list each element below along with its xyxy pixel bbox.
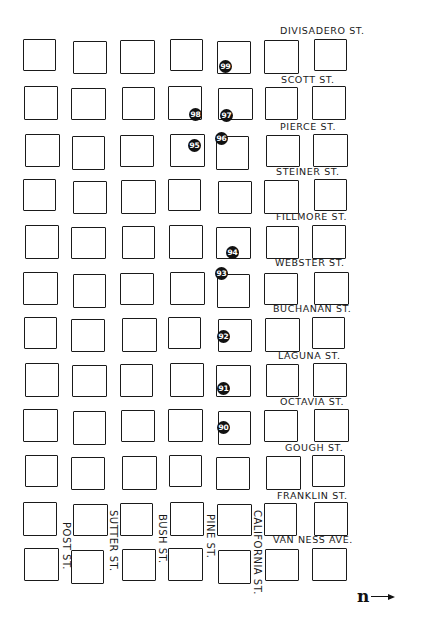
city-block [169, 225, 203, 259]
city-block [218, 550, 251, 584]
city-block [71, 227, 106, 259]
city-block [120, 273, 154, 305]
city-block [71, 550, 104, 584]
city-block [169, 455, 202, 487]
city-block [120, 135, 154, 167]
city-block [170, 39, 203, 71]
city-block [264, 410, 298, 442]
city-block [24, 86, 58, 120]
city-block [73, 41, 107, 74]
city-block [266, 364, 299, 397]
city-block [71, 88, 106, 120]
city-block [25, 455, 58, 487]
city-block [312, 86, 346, 120]
location-marker[interactable]: 99 [219, 60, 232, 73]
city-block [73, 274, 106, 308]
city-block [170, 272, 205, 305]
city-block [25, 134, 60, 167]
street-label: DIVISADERO ST. [280, 25, 365, 36]
city-block [23, 502, 57, 536]
street-label: GOUGH ST. [285, 442, 343, 453]
location-marker[interactable]: 92 [217, 330, 230, 343]
city-block [314, 502, 348, 536]
location-marker[interactable]: 94 [226, 246, 239, 259]
location-marker[interactable]: 96 [215, 132, 228, 145]
city-block [24, 548, 59, 581]
city-block [73, 181, 107, 214]
arrow-head-icon [388, 594, 395, 600]
city-block [120, 503, 153, 536]
city-block [266, 226, 299, 259]
city-block [312, 317, 345, 349]
city-block [170, 363, 204, 397]
city-block [72, 136, 105, 170]
city-block [312, 455, 345, 487]
city-block [216, 457, 250, 490]
location-marker[interactable]: 95 [188, 139, 201, 152]
city-block [24, 317, 57, 349]
city-block [71, 457, 105, 490]
street-label: STEINER ST. [276, 166, 340, 177]
city-block [25, 363, 59, 397]
street-label: PIERCE ST. [280, 121, 336, 132]
street-label-vertical: CALIFORNIA ST. [252, 510, 263, 595]
city-block [122, 549, 156, 581]
city-block [170, 134, 205, 167]
city-block [120, 364, 153, 397]
city-block [312, 225, 346, 259]
location-marker[interactable]: 90 [217, 421, 230, 434]
city-block [266, 456, 301, 490]
city-block [122, 456, 157, 490]
street-label-vertical: SUTTER ST. [108, 510, 119, 572]
city-block [72, 365, 107, 397]
street-label-vertical: POST ST. [61, 522, 72, 570]
city-block [314, 179, 347, 211]
city-block [266, 135, 300, 167]
city-block [23, 272, 58, 305]
city-block [73, 504, 108, 536]
city-block [265, 549, 299, 581]
location-marker[interactable]: 91 [217, 382, 230, 395]
city-block [314, 272, 349, 305]
city-block [264, 273, 298, 305]
street-label: SCOTT ST. [281, 74, 335, 85]
city-block [264, 40, 299, 74]
city-block [120, 40, 155, 74]
city-block [168, 409, 203, 442]
street-label: FRANKLIN ST. [277, 490, 348, 501]
city-block [264, 180, 299, 214]
city-block [312, 548, 347, 581]
city-block [168, 317, 201, 349]
street-label: OCTAVIA ST. [280, 396, 344, 407]
city-block [168, 179, 201, 211]
city-block [73, 411, 106, 445]
city-block [313, 363, 347, 397]
city-block [168, 548, 203, 581]
arrow-shaft [371, 596, 388, 597]
city-block [23, 39, 56, 71]
location-marker[interactable]: 98 [189, 108, 202, 121]
location-marker[interactable]: 93 [215, 267, 228, 280]
city-block [170, 502, 204, 536]
city-block [121, 180, 156, 214]
location-marker[interactable]: 97 [220, 109, 233, 122]
city-block [23, 179, 56, 211]
city-block [121, 410, 155, 442]
street-label-vertical: PINE ST. [205, 514, 216, 558]
street-label: BUCHANAN ST. [273, 303, 351, 314]
city-block [265, 318, 300, 352]
city-block [122, 87, 155, 120]
city-block [25, 225, 59, 259]
north-arrow-icon: n [357, 588, 395, 605]
city-block [314, 409, 349, 442]
city-block [265, 87, 298, 120]
city-block [71, 319, 105, 352]
city-block [313, 134, 348, 167]
neighborhood-map: DIVISADERO ST.SCOTT ST.PIERCE ST.STEINER… [0, 0, 434, 638]
street-label-vertical: BUSH ST. [157, 514, 168, 564]
city-block [122, 226, 155, 259]
street-label: FILLMORE ST. [276, 211, 347, 222]
street-label: LAGUNA ST. [278, 350, 341, 361]
city-block [264, 503, 297, 536]
city-block [122, 318, 157, 352]
